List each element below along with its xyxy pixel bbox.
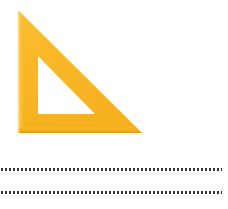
image-canvas bbox=[0, 0, 228, 209]
dotted-line-2 bbox=[1, 191, 222, 194]
dotted-line-1 bbox=[1, 168, 222, 171]
set-square-illustration bbox=[0, 0, 228, 150]
set-square-svg bbox=[0, 0, 228, 150]
set-square-body bbox=[0, 0, 228, 150]
